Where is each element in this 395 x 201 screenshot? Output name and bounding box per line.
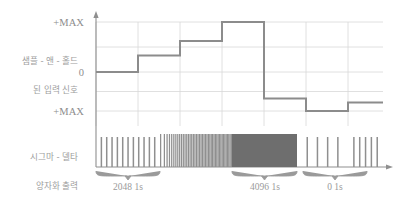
brace-marks (96, 171, 367, 180)
staircase-trace (96, 22, 383, 111)
waveform-plot (0, 0, 395, 201)
sigma-delta-timing-figure: +MAX 0 +MAX 샘플 - 앤 - 홀드 된 입력 신호 시그마 - 델타… (0, 0, 395, 201)
quantizer-pulse-train (101, 134, 378, 167)
